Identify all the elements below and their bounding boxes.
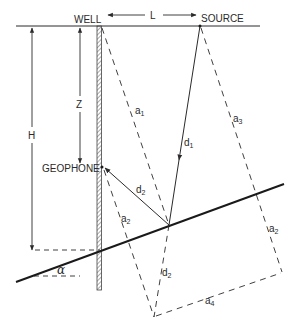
seismic-geometry-diagram: WELL SOURCE L Z H GEOPHONE α a1 a3 d1 d2… xyxy=(0,0,298,330)
diagram-canvas: WELL SOURCE L Z H GEOPHONE α a1 a3 d1 d2… xyxy=(0,0,298,330)
well-label: WELL xyxy=(74,14,102,25)
geophone-label: GEOPHONE xyxy=(42,163,100,174)
construction-line-a2 xyxy=(104,170,154,317)
d2-image-label: d2 xyxy=(162,267,172,279)
source-point xyxy=(199,25,202,28)
a3-label: a3 xyxy=(233,113,243,125)
d1-label: d1 xyxy=(184,137,194,149)
Z-label: Z xyxy=(76,99,82,110)
L-label: L xyxy=(150,10,156,21)
incident-ray-d1 xyxy=(169,26,200,225)
a2-right-label: a2 xyxy=(269,223,279,235)
H-label: H xyxy=(28,130,35,141)
alpha-label: α xyxy=(57,263,65,277)
a1-label: a1 xyxy=(135,105,145,117)
geophone-point xyxy=(101,166,104,169)
source-label: SOURCE xyxy=(201,13,244,24)
construction-line-a3 xyxy=(201,28,282,272)
construction-line-a4 xyxy=(156,273,281,316)
a2-left-label: a2 xyxy=(121,213,131,225)
d2-ray-label: d2 xyxy=(136,184,146,196)
